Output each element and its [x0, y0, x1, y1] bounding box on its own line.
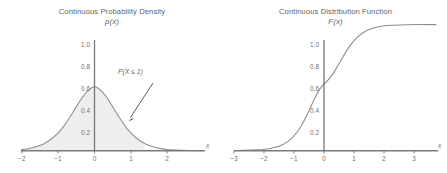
pdf-xaxis-label: x	[206, 142, 209, 149]
cdf-curve	[236, 25, 436, 151]
pdf-xtick-label: 1	[121, 155, 141, 162]
cdf-ytick-label: 0.4	[297, 107, 319, 114]
cdf-xaxis-label: x	[438, 142, 441, 149]
pdf-xtick-label: 2	[157, 155, 177, 162]
panel-distribution-function: Continuous Distribution Function F(x) 1.…	[224, 0, 447, 173]
pdf-xtick-label: −2	[12, 155, 32, 162]
cdf-xtick-label: 3	[404, 155, 424, 162]
pdf-annotation-arrowhead	[128, 116, 135, 122]
figure-canvas: Continuous Probability Density p(x) 1.0 …	[0, 0, 447, 173]
cdf-ytick-label: 0.8	[297, 63, 319, 70]
cdf-xtick-label: −3	[224, 155, 244, 162]
cdf-ytick-label: 1.0	[297, 41, 319, 48]
pdf-plot	[0, 0, 224, 173]
pdf-ytick-label: 1.0	[68, 41, 90, 48]
cdf-xtick-label: 2	[374, 155, 394, 162]
cdf-plot	[224, 0, 447, 173]
cdf-xtick-label: 1	[344, 155, 364, 162]
pdf-ytick-label: 0.8	[68, 63, 90, 70]
cdf-xtick-label: −1	[284, 155, 304, 162]
cdf-ytick-label: 0.6	[297, 85, 319, 92]
panel-probability-density: Continuous Probability Density p(x) 1.0 …	[0, 0, 224, 173]
cdf-xtick-label: −2	[254, 155, 274, 162]
cdf-ytick-label: 0.2	[297, 129, 319, 136]
pdf-xtick-label: 0	[85, 155, 105, 162]
cdf-xtick-label: 0	[314, 155, 334, 162]
pdf-probability-annotation: P(X ≤ 1)	[118, 68, 143, 75]
pdf-ytick-label: 0.2	[68, 129, 90, 136]
pdf-xtick-label: −1	[48, 155, 68, 162]
pdf-annotation-arrow-line	[131, 83, 154, 118]
pdf-ytick-label: 0.6	[68, 85, 90, 92]
pdf-ytick-label: 0.4	[68, 107, 90, 114]
